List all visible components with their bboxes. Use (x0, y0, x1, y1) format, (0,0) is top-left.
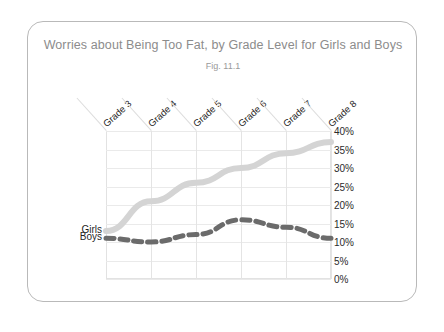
y-axis-tick-label: 0% (334, 274, 348, 285)
x-axis-tick-label: Grade 6 (236, 98, 269, 129)
chart-subtitle: Fig. 11.1 (28, 61, 418, 71)
y-axis-tick-label: 35% (334, 144, 354, 155)
y-axis-tick-label: 15% (334, 218, 354, 229)
x-axis-tick-line (122, 98, 152, 131)
x-axis-tick-label: Grade 5 (191, 98, 224, 129)
x-axis-tick-line (257, 98, 287, 131)
y-axis-tick-label: 25% (334, 181, 354, 192)
plot-area (106, 131, 331, 279)
chart-title: Worries about Being Too Fat, by Grade Le… (28, 38, 418, 52)
y-axis-tick-label: 5% (334, 255, 348, 266)
x-axis-tick-line (212, 98, 242, 131)
y-axis-labels: 0%5%10%15%20%25%30%35%40% (334, 131, 394, 279)
gridline-vertical (331, 131, 332, 279)
y-axis-tick-label: 10% (334, 237, 354, 248)
series-line-boys (106, 220, 331, 242)
x-axis-tick-line (77, 98, 107, 131)
x-axis-tick-label: Grade 7 (281, 98, 314, 129)
y-axis-tick-label: 20% (334, 200, 354, 211)
series-label-boys: Boys (56, 231, 102, 242)
y-axis-tick-label: 40% (334, 126, 354, 137)
x-axis-tick-line (167, 98, 197, 131)
x-axis-tick-label: Grade 3 (101, 98, 134, 129)
chart-page: Worries about Being Too Fat, by Grade Le… (0, 0, 444, 332)
chart-card: Worries about Being Too Fat, by Grade Le… (27, 21, 417, 302)
x-axis-tick-label: Grade 8 (326, 98, 359, 129)
y-axis-tick-label: 30% (334, 163, 354, 174)
x-axis-tick-line (302, 98, 332, 131)
series-line-girls (106, 142, 331, 231)
series-lines (106, 131, 331, 279)
x-axis-tick-label: Grade 4 (146, 98, 179, 129)
gridline-horizontal (106, 279, 331, 280)
